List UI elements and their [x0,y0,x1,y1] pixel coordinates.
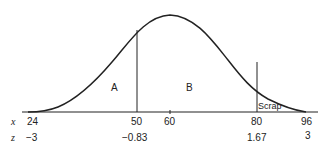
x-tick-24: 24 [27,117,38,127]
z-row-symbol: z [11,133,15,143]
normal-curve-diagram [0,0,329,151]
x-tick-50: 50 [131,117,142,127]
x-tick-96: 96 [301,117,312,127]
x-row-symbol: x [11,117,15,127]
region-label-b: B [186,83,193,93]
z-tick-3: 3 [305,131,311,141]
z-tick-167: 1.67 [247,133,266,143]
region-label-a: A [111,83,118,93]
region-label-scrap: Scrap [258,101,282,111]
z-tick-neg3: −3 [26,133,37,143]
z-tick-neg083: −0.83 [122,133,147,143]
bell-curve [28,15,306,112]
x-tick-80: 80 [251,117,262,127]
x-tick-60: 60 [164,117,175,127]
